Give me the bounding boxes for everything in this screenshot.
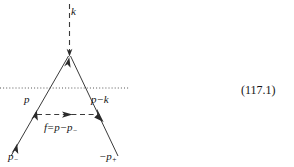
electron-subscript: −: [14, 155, 19, 164]
positron-momentum-label: −p+: [99, 151, 117, 163]
equation-number: (117.1): [241, 84, 276, 96]
electron-momentum-label: p−: [8, 151, 19, 163]
left-momentum-label: p: [24, 94, 30, 105]
feynman-diagram-figure: k p p−k f=p−p− p− −p+ (117.1): [0, 0, 294, 167]
right-fermion-arrowhead-mid: [94, 109, 103, 122]
photon-momentum-label: k: [71, 6, 76, 17]
transfer-momentum-label: f=p−p−: [44, 122, 78, 134]
transfer-subscript: −: [73, 126, 78, 135]
left-fermion-line: [11, 56, 69, 156]
positron-subscript: +: [112, 155, 117, 164]
right-momentum-label: p−k: [91, 94, 109, 105]
right-fermion-line: [71, 56, 119, 156]
